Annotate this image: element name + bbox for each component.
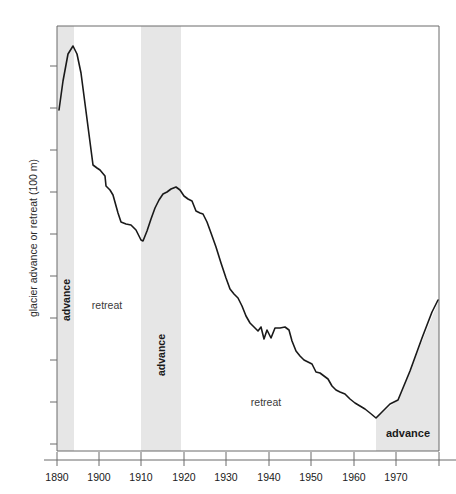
- advance-label-3: advance: [386, 427, 430, 439]
- x-tick-label: 1900: [87, 471, 111, 483]
- advance-label-2: advance: [155, 334, 167, 376]
- x-tick-label: 1970: [384, 471, 408, 483]
- advance-band-1: [57, 26, 74, 451]
- x-tick-label: 1950: [299, 471, 323, 483]
- advance-band-2: [141, 26, 181, 451]
- x-tick-label: 1960: [342, 471, 366, 483]
- x-tick-label: 1940: [257, 471, 281, 483]
- y-axis-ticks: [50, 66, 57, 444]
- glacier-curve: [59, 46, 438, 418]
- chart-plot: 1890 1900 1910 1920 1930 1940 1950 1960 …: [0, 0, 456, 494]
- retreat-label-2: retreat: [251, 396, 281, 408]
- advance-label-1: advance: [60, 279, 72, 321]
- x-axis-tick-labels: 1890 1900 1910 1920 1930 1940 1950 1960 …: [45, 471, 408, 483]
- x-tick-label: 1920: [172, 471, 196, 483]
- plot-frame: [57, 26, 439, 451]
- glacier-advance-retreat-figure: glacier advance or retreat (100 m): [0, 0, 456, 494]
- x-tick-label: 1910: [129, 471, 153, 483]
- x-axis: [44, 452, 456, 466]
- retreat-label-1: retreat: [92, 299, 122, 311]
- x-tick-label: 1890: [45, 471, 69, 483]
- x-tick-label: 1930: [214, 471, 238, 483]
